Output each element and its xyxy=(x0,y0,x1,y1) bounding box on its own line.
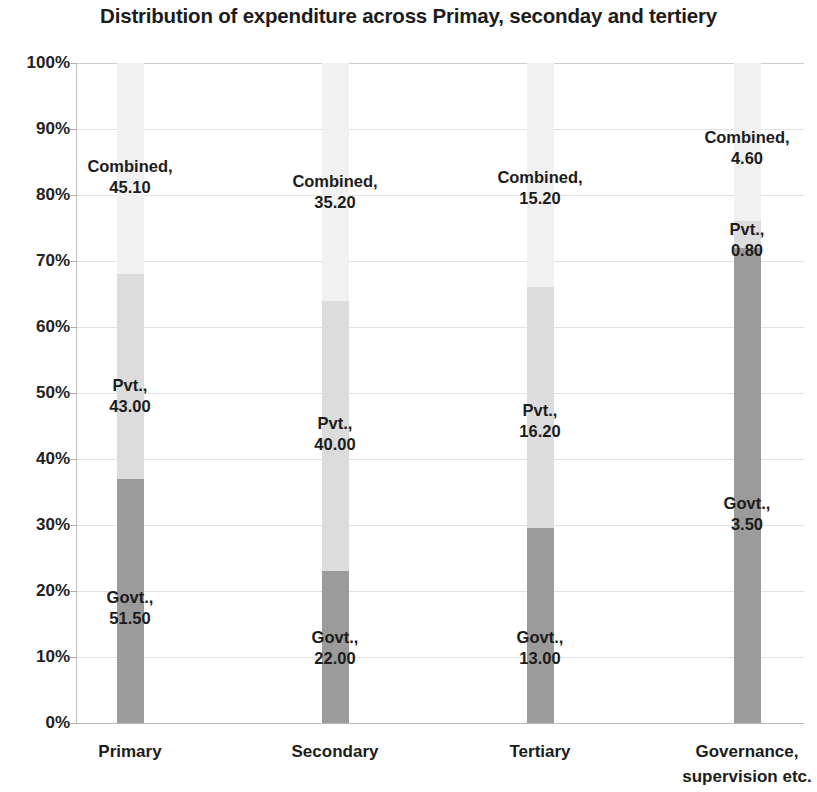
x-axis-category-label-line: Governance, xyxy=(647,740,817,765)
bar-column[interactable] xyxy=(322,63,349,723)
bar-segment-pvt[interactable] xyxy=(527,287,554,528)
x-axis-category-label-line: supervision etc. xyxy=(647,765,817,790)
bar-segment-pvt[interactable] xyxy=(117,274,144,479)
gridline xyxy=(77,525,804,526)
bar-segment-pvt[interactable] xyxy=(734,221,761,247)
bar-column[interactable] xyxy=(734,63,761,723)
bar-segment-govt[interactable] xyxy=(322,571,349,723)
bar-segment-govt[interactable] xyxy=(117,479,144,723)
y-axis-tick-label: 70% xyxy=(4,251,70,271)
y-axis-tick-label: 20% xyxy=(4,581,70,601)
y-axis-tick-mark xyxy=(70,657,77,658)
gridline xyxy=(77,657,804,658)
gridline xyxy=(77,327,804,328)
gridline xyxy=(77,459,804,460)
x-axis-category-label-line: Primary xyxy=(30,740,230,765)
bar-segment-pvt[interactable] xyxy=(322,301,349,572)
y-axis-tick-label: 0% xyxy=(4,713,70,733)
y-axis-tick-mark xyxy=(70,129,77,130)
x-axis-category-label: Primary xyxy=(30,740,230,765)
gridline xyxy=(77,195,804,196)
bar-column[interactable] xyxy=(527,63,554,723)
gridline xyxy=(77,591,804,592)
y-axis-tick-mark xyxy=(70,63,77,64)
gridline xyxy=(77,261,804,262)
bar-segment-govt[interactable] xyxy=(734,248,761,723)
bar-segment-combined[interactable] xyxy=(734,63,761,221)
y-axis-tick-mark xyxy=(70,261,77,262)
x-axis-category-label: Governance,supervision etc. xyxy=(647,740,817,789)
gridline xyxy=(77,393,804,394)
y-axis-tick-label: 40% xyxy=(4,449,70,469)
y-axis-tick-label: 80% xyxy=(4,185,70,205)
x-axis-category-label: Tertiary xyxy=(440,740,640,765)
bar-segment-combined[interactable] xyxy=(117,63,144,274)
chart-container: Distribution of expenditure across Prima… xyxy=(0,0,817,792)
bar-segment-combined[interactable] xyxy=(527,63,554,287)
y-axis-tick-mark xyxy=(70,393,77,394)
y-axis-tick-label: 10% xyxy=(4,647,70,667)
x-axis-category-label-line: Tertiary xyxy=(440,740,640,765)
x-axis-labels: PrimarySecondaryTertiaryGovernance,super… xyxy=(0,740,817,792)
gridline xyxy=(77,723,804,724)
y-axis-tick-mark xyxy=(70,459,77,460)
plot-area: Govt.,51.50Pvt.,43.00Combined,45.10Govt.… xyxy=(77,63,804,723)
y-axis-tick-label: 60% xyxy=(4,317,70,337)
y-axis-tick-label: 90% xyxy=(4,119,70,139)
gridline xyxy=(77,63,804,64)
bar-column[interactable] xyxy=(117,63,144,723)
y-axis-tick-label: 50% xyxy=(4,383,70,403)
y-axis-tick-label: 30% xyxy=(4,515,70,535)
x-axis-category-label-line: Secondary xyxy=(235,740,435,765)
y-axis-tick-label: 100% xyxy=(4,53,70,73)
gridline xyxy=(77,129,804,130)
y-axis-tick-mark xyxy=(70,195,77,196)
y-axis-tick-mark xyxy=(70,723,77,724)
y-axis-tick-mark xyxy=(70,327,77,328)
x-axis-category-label: Secondary xyxy=(235,740,435,765)
y-axis-labels: 0%10%20%30%40%50%60%70%80%90%100% xyxy=(0,0,70,792)
bar-segment-combined[interactable] xyxy=(322,63,349,301)
y-axis-tick-mark xyxy=(70,591,77,592)
y-axis-tick-mark xyxy=(70,525,77,526)
chart-title: Distribution of expenditure across Prima… xyxy=(0,4,817,28)
bar-segment-govt[interactable] xyxy=(527,528,554,723)
